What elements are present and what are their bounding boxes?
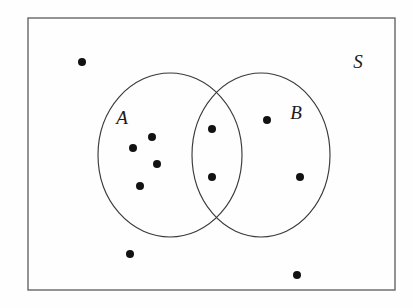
set-a-circle [98,73,242,237]
element-dot [296,173,304,181]
element-dot [293,271,301,279]
set-b-label: B [290,102,302,123]
element-dot [263,116,271,124]
venn-diagram-canvas: A B S [0,0,412,308]
element-dot [78,58,86,66]
set-a-label: A [114,107,128,128]
element-dot [129,144,137,152]
universal-set-label: S [353,51,363,72]
element-dot [208,173,216,181]
element-dot [148,133,156,141]
set-b-circle [192,73,330,237]
venn-diagram-svg: A B S [0,0,412,308]
element-dot [136,182,144,190]
element-dot-group [78,58,304,279]
element-dot [208,125,216,133]
element-dot [153,160,161,168]
element-dot [126,250,134,258]
